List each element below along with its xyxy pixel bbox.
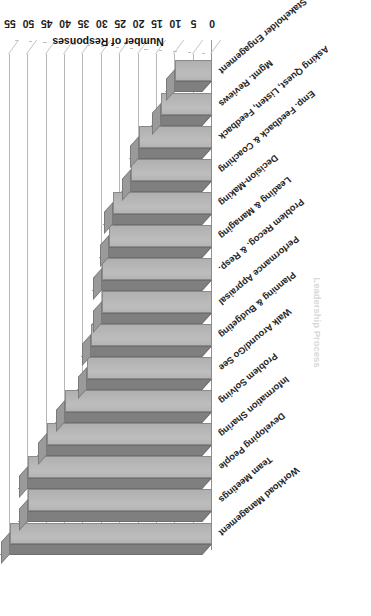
category-label-14: Stakeholder Engagement [217, 0, 338, 75]
category-axis-title: Leadership Process [312, 263, 323, 383]
bar-chart: 0510152025303540455055 Number of Respons… [0, 0, 371, 616]
chart-canvas: 0510152025303540455055 Number of Respons… [0, 0, 371, 616]
